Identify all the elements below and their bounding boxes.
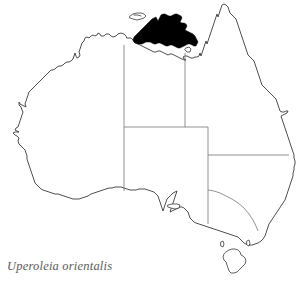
species-distribution-figure: Uperoleia orientalis: [0, 0, 302, 282]
flinders-island: [247, 240, 250, 246]
kangaroo-island: [168, 204, 180, 209]
king-island: [221, 241, 224, 247]
australia-distribution-map: [0, 0, 302, 282]
melville-bathurst-islands: [130, 13, 146, 20]
top-end-range-main: [133, 14, 198, 48]
tasmania: [223, 249, 246, 273]
species-caption: Uperoleia orientalis: [7, 259, 112, 273]
groote-eylandt-range-patch: [173, 32, 179, 38]
groote-eylandt: [185, 47, 191, 52]
